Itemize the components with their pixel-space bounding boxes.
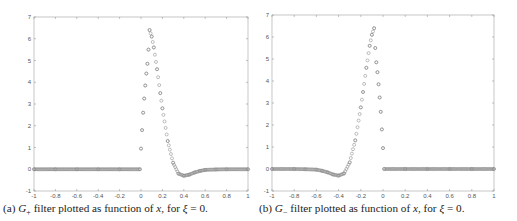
- x-tick-label: 0.6: [201, 193, 210, 199]
- y-tick-label: -1: [26, 188, 32, 194]
- x-tick-label: 0.8: [222, 193, 231, 199]
- x-tick-label: -0.8: [50, 193, 61, 199]
- x-tick-label: -0.6: [311, 193, 322, 199]
- caption-text: = 0.: [188, 202, 208, 214]
- x-tick-label: 0: [381, 193, 385, 199]
- y-tick-label: 0: [28, 166, 32, 172]
- plot-area: -1-0.8-0.6-0.4-0.200.20.40.60.81-1012345…: [26, 14, 251, 199]
- x-tick-label: -0.2: [114, 193, 125, 199]
- caption-prefix: (b): [259, 202, 272, 214]
- y-tick-label: 7: [28, 14, 32, 20]
- y-tick-label: 2: [28, 123, 32, 129]
- x-tick-label: -0.2: [356, 193, 367, 199]
- y-tick-label: 1: [28, 145, 32, 151]
- y-tick-label: 5: [266, 56, 270, 62]
- data-series: [271, 27, 496, 177]
- x-tick-label: 1: [492, 193, 496, 199]
- axes-frame: [34, 17, 248, 191]
- chart-g-plus: -1-0.8-0.6-0.4-0.200.20.40.60.81-1012345…: [0, 0, 258, 200]
- caption-text: filter plotted as function of: [287, 202, 413, 214]
- x-tick-label: -0.6: [72, 193, 83, 199]
- x-tick-label: -0.8: [289, 193, 300, 199]
- caption-text: filter plotted as function of: [31, 202, 157, 214]
- caption-prefix: (a): [3, 202, 15, 214]
- x-tick-label: 0.2: [401, 193, 410, 199]
- plot-area: -1-0.8-0.6-0.4-0.200.20.40.60.81-1012345…: [264, 12, 497, 199]
- caption-b: (b) G− filter plotted as function of x, …: [259, 202, 517, 217]
- figure-b: -1-0.8-0.6-0.4-0.200.20.40.60.81-1012345…: [259, 0, 517, 221]
- y-tick-label: 4: [28, 79, 32, 85]
- y-tick-label: 0: [266, 166, 270, 172]
- y-tick-label: 5: [28, 58, 32, 64]
- y-tick-label: 3: [266, 100, 270, 106]
- x-tick-label: 0.4: [423, 193, 432, 199]
- x-tick-label: 1: [246, 193, 250, 199]
- y-tick-label: 6: [266, 34, 270, 40]
- x-tick-label: 0.2: [158, 193, 167, 199]
- x-tick-label: -1: [269, 193, 275, 199]
- x-tick-label: -1: [31, 193, 37, 199]
- x-tick-label: 0.4: [180, 193, 189, 199]
- y-tick-label: 3: [28, 101, 32, 107]
- x-tick-label: 0.6: [445, 193, 454, 199]
- figure-a: -1-0.8-0.6-0.4-0.200.20.40.60.81-1012345…: [0, 0, 258, 221]
- axes-frame: [272, 15, 494, 191]
- y-tick-label: 6: [28, 36, 32, 42]
- y-tick-label: 2: [266, 122, 270, 128]
- x-tick-label: -0.4: [333, 193, 344, 199]
- x-tick-label: -0.4: [93, 193, 104, 199]
- y-tick-label: 1: [266, 144, 270, 150]
- caption-text: , for: [161, 202, 182, 214]
- caption-symbol: G: [275, 202, 283, 214]
- y-tick-label: 4: [266, 78, 270, 84]
- y-tick-label: -1: [264, 188, 270, 194]
- caption-text: , for: [418, 202, 439, 214]
- y-tick-label: 7: [266, 12, 270, 18]
- caption-a: (a) G+ filter plotted as function of x, …: [3, 202, 265, 217]
- x-tick-label: 0: [139, 193, 143, 199]
- data-series: [33, 29, 250, 178]
- chart-g-minus: -1-0.8-0.6-0.4-0.200.20.40.60.81-1012345…: [259, 0, 517, 200]
- x-tick-label: 0.8: [468, 193, 477, 199]
- caption-text: = 0.: [444, 202, 464, 214]
